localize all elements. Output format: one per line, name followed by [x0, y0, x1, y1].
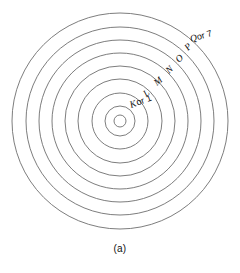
- shell-ring-q: [26, 27, 214, 215]
- figure-container: K or 1 L M N O P Q or 7 (: [0, 0, 240, 273]
- shell-label-q-suffix: or 7: [196, 28, 214, 42]
- concentric-shell-diagram: K or 1 L M N O P Q or 7: [0, 0, 240, 248]
- nucleus-circle: [114, 115, 126, 127]
- shell-label-m-group: M: [151, 74, 165, 88]
- shell-ring-outer: [12, 13, 228, 229]
- shell-label-o-group: O: [173, 52, 185, 64]
- shell-label-o: O: [173, 52, 185, 64]
- shell-label-q-group: Q or 7: [189, 28, 213, 44]
- figure-caption: (a): [0, 243, 240, 254]
- shell-rings-group: [12, 13, 228, 229]
- shell-ring-p: [39, 40, 201, 202]
- shell-label-n-group: N: [163, 63, 176, 76]
- shell-label-m: M: [151, 74, 165, 88]
- shell-ring-k: [105, 106, 135, 136]
- shell-ring-m: [78, 79, 162, 163]
- shell-label-n: N: [163, 63, 176, 76]
